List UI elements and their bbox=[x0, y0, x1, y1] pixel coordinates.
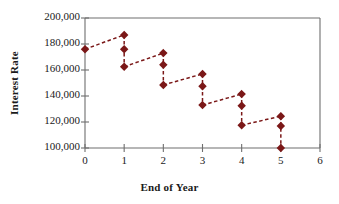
data-point-marker bbox=[199, 71, 205, 77]
interest-rate-chart: Interest Rate 100,000120,000140,000160,0… bbox=[0, 0, 339, 204]
data-point-marker bbox=[199, 102, 205, 108]
data-point-marker bbox=[160, 82, 166, 88]
x-axis-title: End of Year bbox=[0, 181, 339, 193]
data-point-marker bbox=[121, 46, 127, 52]
series-segment-rise bbox=[163, 74, 202, 85]
x-axis-tick-label: 1 bbox=[114, 154, 134, 166]
data-point-marker bbox=[199, 83, 205, 89]
data-point-marker bbox=[82, 46, 88, 52]
data-point-marker bbox=[278, 113, 284, 119]
data-point-marker bbox=[160, 50, 166, 56]
data-point-marker bbox=[160, 62, 166, 68]
x-axis-tick-label: 6 bbox=[310, 154, 330, 166]
data-point-marker bbox=[239, 91, 245, 97]
data-point-marker bbox=[121, 64, 127, 70]
data-point-marker bbox=[239, 122, 245, 128]
data-point-marker bbox=[278, 145, 284, 151]
data-point-marker bbox=[121, 32, 127, 38]
x-axis-tick-label: 4 bbox=[232, 154, 252, 166]
x-axis-tick-label: 5 bbox=[271, 154, 291, 166]
data-point-marker bbox=[278, 123, 284, 129]
x-axis-tick-label: 3 bbox=[193, 154, 213, 166]
series-segment-rise bbox=[124, 53, 163, 67]
series-segment-rise bbox=[85, 35, 124, 49]
x-axis-tick-label: 2 bbox=[153, 154, 173, 166]
plot-area bbox=[0, 0, 339, 204]
x-axis-tick-label: 0 bbox=[75, 154, 95, 166]
data-point-marker bbox=[239, 103, 245, 109]
series-segment-rise bbox=[203, 94, 242, 105]
x-axis-tick-labels: 0123456 bbox=[0, 154, 339, 170]
series-segment-rise bbox=[242, 116, 281, 125]
